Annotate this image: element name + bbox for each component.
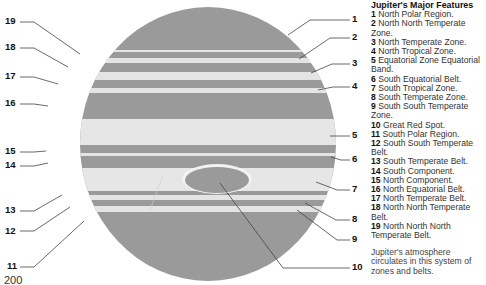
page-number: 200 — [4, 274, 22, 285]
callout-8: 8 — [352, 213, 357, 224]
callout-10: 10 — [352, 261, 363, 272]
callout-4: 4 — [352, 80, 357, 91]
callout-5: 5 — [352, 129, 357, 140]
callout-12: 12 — [5, 225, 16, 236]
callout-9: 9 — [352, 233, 357, 244]
legend-item: 18 North North Temperate Belt. — [371, 203, 486, 221]
zone-nt — [70, 72, 350, 80]
callout-18: 18 — [5, 41, 16, 52]
callout-11: 11 — [7, 260, 17, 271]
callout-7: 7 — [352, 183, 357, 194]
legend-item: 9 South South Temperate Zone. — [371, 102, 486, 120]
zone-st — [70, 195, 350, 200]
legend-item: 2 North North Temperate Zone. — [371, 19, 486, 37]
legend-item: 5 Equatorial Zone Equatorial Band. — [371, 56, 486, 74]
leader-lines-left — [20, 22, 84, 267]
callout-17: 17 — [5, 70, 16, 81]
callout-19: 19 — [5, 15, 16, 26]
planet-jupiter — [70, 0, 350, 285]
zone-ntr — [70, 88, 350, 93]
callout-2: 2 — [352, 31, 357, 42]
callout-3: 3 — [352, 57, 357, 68]
zone-equatorial — [70, 119, 350, 145]
callout-14: 14 — [5, 159, 16, 170]
callout-1: 1 — [352, 13, 357, 24]
callout-16: 16 — [5, 97, 16, 108]
zone-line — [70, 50, 350, 52]
great-red-spot — [185, 167, 249, 193]
legend: Jupiter's Major Features 1 North Polar R… — [371, 1, 486, 276]
legend-item: 12 South South Temperate Belt. — [371, 139, 486, 157]
zone-sst — [70, 206, 350, 212]
callout-15: 15 — [5, 145, 16, 156]
callout-6: 6 — [352, 153, 357, 164]
zone-nnt — [70, 58, 350, 63]
legend-item: 19 North North North Temperate Belt. — [371, 222, 486, 240]
zone-seb-divider — [70, 153, 350, 156]
callout-13: 13 — [5, 204, 16, 215]
legend-note: Jupiter's atmosphere circulates in this … — [371, 248, 486, 276]
